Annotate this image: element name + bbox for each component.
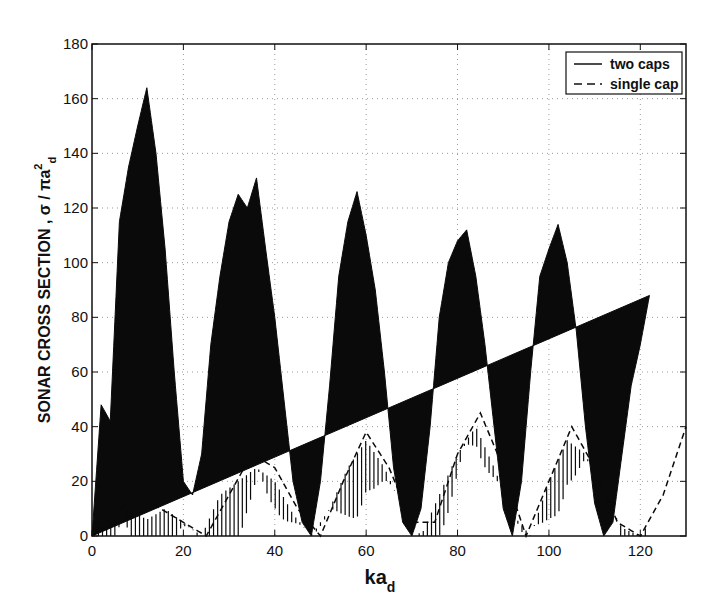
y-tick-label: 20 — [71, 472, 88, 489]
y-tick-label: 0 — [80, 527, 88, 544]
y-tick-label: 140 — [63, 144, 88, 161]
y-tick-label: 160 — [63, 90, 88, 107]
x-tick-label: 100 — [536, 542, 561, 559]
y-axis-label: SONAR CROSS SECTION , σ / πa2d — [32, 157, 58, 423]
x-tick-label: 80 — [449, 542, 466, 559]
chart-figure: 020406080100120020406080100120140160180 … — [0, 0, 724, 612]
y-tick-label: 120 — [63, 199, 88, 216]
x-tick-label: 120 — [628, 542, 653, 559]
legend-label-single-cap: single cap — [610, 76, 678, 92]
x-axis-label: kad — [365, 566, 396, 595]
series-two-caps-band — [92, 88, 649, 536]
legend: two caps single cap — [566, 52, 682, 94]
y-tick-label: 40 — [71, 418, 88, 435]
x-tick-label: 0 — [88, 542, 96, 559]
y-tick-label: 60 — [71, 363, 88, 380]
x-tick-label: 60 — [358, 542, 375, 559]
y-tick-label: 180 — [63, 35, 88, 52]
sonar-cross-section-chart: 020406080100120020406080100120140160180 … — [0, 0, 724, 612]
x-tick-label: 40 — [266, 542, 283, 559]
y-tick-label: 100 — [63, 254, 88, 271]
legend-label-two-caps: two caps — [610, 56, 670, 72]
y-tick-label: 80 — [71, 308, 88, 325]
x-tick-label: 20 — [175, 542, 192, 559]
plot-area — [92, 88, 686, 536]
